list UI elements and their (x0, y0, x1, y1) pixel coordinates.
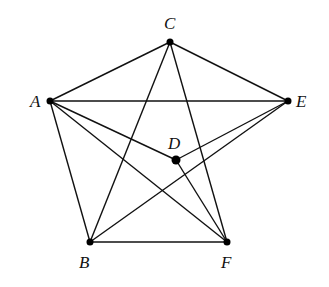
node-D (172, 156, 181, 165)
node-label-F: F (220, 253, 232, 272)
node-label-B: B (79, 253, 90, 272)
node-F (224, 239, 231, 246)
edge-C-E (170, 42, 288, 101)
edge-E-B (90, 101, 288, 242)
node-labels: ABCDEF (29, 14, 307, 272)
node-B (87, 239, 94, 246)
edge-D-E (176, 101, 288, 160)
node-label-C: C (164, 14, 176, 33)
node-label-D: D (167, 134, 181, 153)
edge-A-C (50, 42, 170, 101)
node-label-A: A (29, 92, 41, 111)
node-A (47, 98, 54, 105)
edge-A-B (50, 101, 90, 242)
graph-diagram: ABCDEF (0, 0, 329, 287)
edge-D-F (176, 160, 227, 242)
node-C (167, 39, 174, 46)
node-label-E: E (295, 92, 307, 111)
node-E (285, 98, 292, 105)
